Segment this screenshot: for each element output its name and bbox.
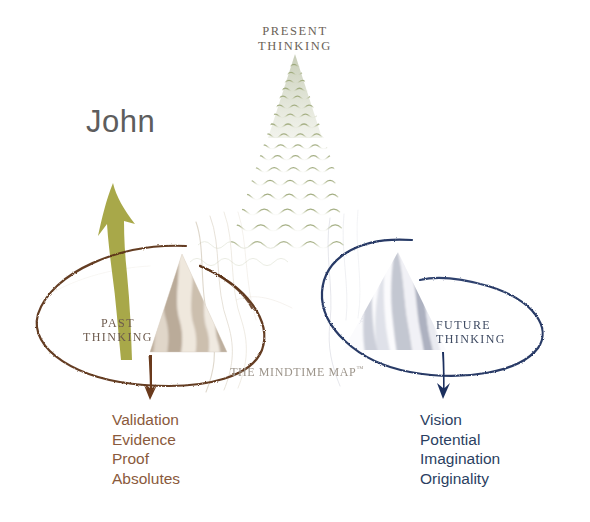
list-item: Originality [420, 469, 500, 489]
person-name-label: John [86, 104, 155, 140]
present-thinking-label: PRESENT THINKING [228, 24, 362, 54]
diagram-artwork [0, 0, 590, 522]
future-thinking-word-list: Vision Potential Imagination Originality [420, 410, 500, 488]
trademark-mark: ™ [356, 365, 363, 373]
list-item: Potential [420, 430, 500, 450]
mindtime-caption-text: THE MINDTIME MAP [230, 365, 356, 379]
past-thinking-word-list: Validation Evidence Proof Absolutes [112, 410, 180, 488]
past-down-arrow [144, 355, 157, 400]
list-item: Vision [420, 410, 500, 430]
list-item: Validation [112, 410, 180, 430]
future-loop [322, 240, 543, 376]
mindtime-map-caption: THE MINDTIME MAP™ [222, 365, 372, 380]
future-thinking-label: FUTURE THINKING [436, 318, 556, 346]
past-thinking-label: PAST THINKING [58, 316, 178, 344]
list-item: Imagination [420, 449, 500, 469]
list-item: Absolutes [112, 469, 180, 489]
list-item: Evidence [112, 430, 180, 450]
mindtime-map-diagram: PRESENT THINKING PAST THINKING FUTURE TH… [0, 0, 590, 522]
present-triangle [198, 54, 343, 248]
list-item: Proof [112, 449, 180, 469]
past-triangle [140, 244, 240, 378]
present-wave-tails [190, 242, 290, 266]
